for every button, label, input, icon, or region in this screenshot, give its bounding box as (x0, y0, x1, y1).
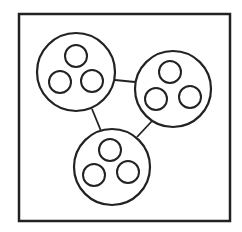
cluster-right (135, 51, 211, 127)
cluster-top-left (37, 33, 115, 111)
cluster-diagram (0, 0, 242, 232)
cluster-bottom (74, 129, 150, 205)
